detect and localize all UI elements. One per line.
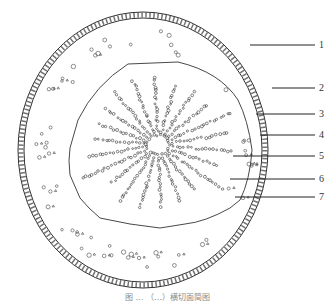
label-5: 5 bbox=[319, 151, 324, 161]
figure-caption: 图 … （…）横切面简图 bbox=[0, 291, 335, 302]
label-6: 6 bbox=[319, 174, 324, 184]
label-1: 1 bbox=[319, 40, 324, 50]
label-7: 7 bbox=[319, 192, 324, 202]
label-4: 4 bbox=[319, 130, 324, 140]
label-2: 2 bbox=[319, 83, 324, 93]
vascular-rays bbox=[82, 76, 232, 209]
leader-lines bbox=[230, 45, 315, 197]
label-3: 3 bbox=[319, 109, 324, 119]
